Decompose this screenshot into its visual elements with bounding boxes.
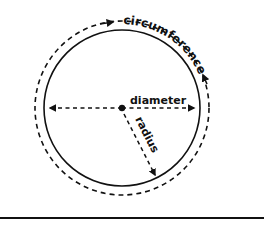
circle-parts-diagram: diameter radius circumference (0, 0, 264, 226)
radius-label: radius (132, 114, 161, 155)
circumference-arrow-start-icon (100, 22, 113, 24)
diameter-label: diameter (130, 94, 187, 107)
center-point (119, 105, 125, 111)
